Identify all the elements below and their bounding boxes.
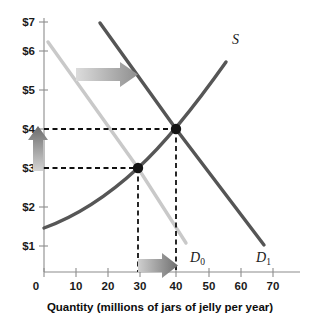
equilibrium-dot-new	[171, 124, 181, 134]
demand-d1-label: D1	[255, 250, 271, 267]
demand-d1-label-sub: 1	[266, 257, 271, 267]
x-tick-label-50: 50	[203, 280, 216, 292]
x-tick-label-60: 60	[235, 280, 248, 292]
y-tick-label-2: $2	[22, 201, 35, 213]
quantity-increase-arrow	[138, 253, 178, 278]
demand-d0-label: D0	[189, 250, 205, 267]
x-tick-label-0: 0	[33, 280, 39, 292]
demand-curve-d1	[100, 23, 264, 245]
x-tick-label-70: 70	[267, 280, 280, 292]
chart-canvas: $1 $2 $3 $4 $5 $6 $7 0 10 20 30 40 50 60…	[0, 0, 312, 319]
supply-curve-s	[44, 62, 226, 228]
equilibrium-dot-initial	[133, 163, 143, 173]
supply-demand-figure: $1 $2 $3 $4 $5 $6 $7 0 10 20 30 40 50 60…	[0, 0, 312, 319]
demand-d0-label-sub: 0	[200, 257, 205, 267]
y-tick-label-1: $1	[22, 240, 35, 252]
y-tick-label-5: $5	[22, 84, 35, 96]
x-axis-title: Quantity (millions of jars of jelly per …	[47, 301, 273, 313]
x-tick-label-30: 30	[134, 280, 147, 292]
demand-d0-label-base: D	[189, 250, 200, 265]
supply-curve-label: S	[232, 32, 239, 47]
y-tick-label-6: $6	[22, 45, 35, 57]
y-tick-label-7: $7	[22, 16, 35, 28]
x-tick-label-20: 20	[102, 280, 115, 292]
demand-d1-label-base: D	[255, 250, 266, 265]
x-tick-label-10: 10	[70, 280, 83, 292]
x-tick-label-40: 40	[170, 280, 183, 292]
